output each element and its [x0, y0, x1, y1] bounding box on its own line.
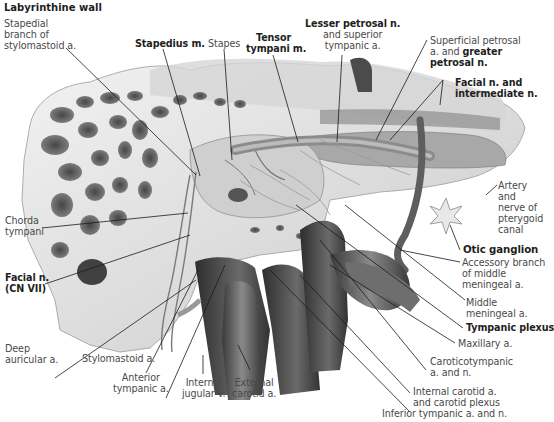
label-stylomastoid: Stylomastoid a.: [82, 353, 155, 364]
label-line: auricular a.: [5, 354, 58, 365]
label-line: and carotid plexus: [413, 397, 500, 408]
label-line: Anterior: [113, 372, 169, 383]
label-line: Caroticotympanic: [430, 356, 513, 367]
label-line: Facial n. and: [455, 77, 537, 88]
label-line: carotid a.: [232, 388, 276, 399]
label-tensor-tympani: Tensor tympani m.: [246, 32, 306, 54]
label-stapedial-branch: Stapedial branch of stylomastoid a.: [4, 18, 76, 51]
label-superficial-petrosal: Superficial petrosal a. and greater petr…: [430, 35, 521, 68]
label-line: and superior: [305, 29, 400, 40]
label-line: Superficial petrosal: [430, 35, 521, 46]
label-line: Facial n.: [5, 272, 49, 283]
label-internal-carotid: Internal carotid a. and carotid plexus: [413, 386, 500, 408]
label-line: Internal carotid a.: [413, 386, 500, 397]
label-line: Lesser petrosal n.: [305, 18, 400, 29]
label-line: Internal: [182, 377, 225, 388]
label-line: pterygoid: [498, 213, 543, 224]
label-line: External: [232, 377, 276, 388]
label-accessory-branch: Accessory branch of middle meningeal a.: [462, 257, 545, 290]
label-stapedius: Stapedius m.: [135, 38, 205, 49]
label-fragment: a. and: [430, 46, 462, 57]
label-line: stylomastoid a.: [4, 40, 76, 51]
label-facial-n: Facial n. (CN VII): [5, 272, 49, 294]
label-line: Middle: [466, 297, 527, 308]
label-tympanic-plexus: Tympanic plexus: [466, 322, 554, 333]
label-inferior-tympanic: Inferior tympanic a. and n.: [382, 408, 507, 419]
label-line: nerve of: [498, 202, 543, 213]
otic-ganglion-shape: [430, 198, 462, 234]
label-line: a. and n.: [430, 367, 513, 378]
label-middle-meningeal: Middle meningeal a.: [466, 297, 527, 319]
label-line: tympanic a.: [305, 40, 400, 51]
label-line: a. and greater: [430, 46, 521, 57]
label-line: Chorda: [5, 215, 44, 226]
label-line: Deep: [5, 343, 58, 354]
label-fragment: greater: [462, 46, 502, 57]
label-line: Accessory branch: [462, 257, 545, 268]
label-line: jugular v.: [182, 388, 225, 399]
label-otic-ganglion: Otic ganglion: [463, 244, 538, 255]
label-line: canal: [498, 224, 543, 235]
label-line: of middle: [462, 268, 545, 279]
label-external-carotid: External carotid a.: [232, 377, 276, 399]
label-line: meningeal a.: [466, 308, 527, 319]
label-line: tympani: [5, 226, 44, 237]
label-maxillary: Maxillary a.: [458, 338, 512, 349]
label-lesser-petrosal: Lesser petrosal n. and superior tympanic…: [305, 18, 400, 51]
label-line: meningeal a.: [462, 279, 545, 290]
label-line: Tensor: [246, 32, 306, 43]
label-artery-pterygoid: Artery and nerve of pterygoid canal: [498, 180, 543, 235]
label-internal-jugular: Internal jugular v.: [182, 377, 225, 399]
label-stapes: Stapes: [208, 38, 240, 49]
label-caroticotympanic: Caroticotympanic a. and n.: [430, 356, 513, 378]
label-line: petrosal n.: [430, 57, 521, 68]
label-line: branch of: [4, 29, 76, 40]
label-line: tympani m.: [246, 43, 306, 54]
label-line: Stapedial: [4, 18, 76, 29]
label-deep-auricular: Deep auricular a.: [5, 343, 58, 365]
label-line: tympanic a.: [113, 383, 169, 394]
label-line: (CN VII): [5, 283, 49, 294]
label-line: intermediate n.: [455, 88, 537, 99]
figure-title: Labyrinthine wall: [4, 2, 102, 13]
label-chorda-tympani: Chorda tympani: [5, 215, 44, 237]
label-anterior-tympanic: Anterior tympanic a.: [113, 372, 169, 394]
label-facial-intermediate: Facial n. and intermediate n.: [455, 77, 537, 99]
label-line: and: [498, 191, 543, 202]
label-line: Artery: [498, 180, 543, 191]
